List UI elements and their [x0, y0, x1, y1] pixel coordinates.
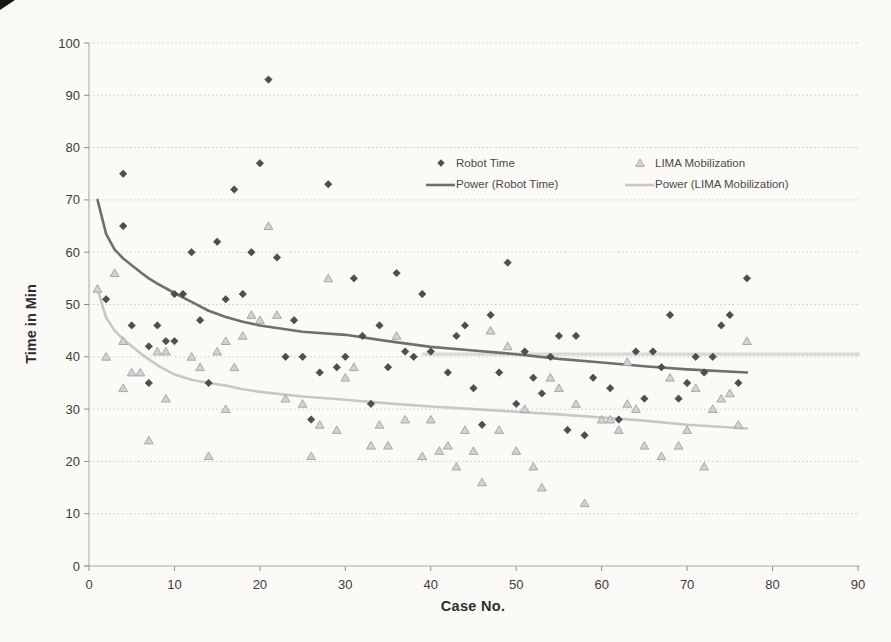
x-tick-label: 70: [665, 577, 709, 592]
plot-area: [0, 0, 891, 642]
data-point-robot-time: [444, 369, 451, 376]
data-point-robot-time: [607, 384, 614, 391]
data-point-robot-time: [273, 254, 280, 261]
legend-label: Power (LIMA Mobilization): [655, 178, 789, 191]
data-point-robot-time: [290, 316, 297, 323]
data-point-lima-mobilization: [264, 222, 273, 230]
data-point-lima-mobilization: [666, 374, 675, 382]
data-point-lima-mobilization: [127, 368, 136, 376]
data-point-robot-time: [675, 395, 682, 402]
data-point-robot-time: [504, 259, 511, 266]
data-point-lima-mobilization: [725, 389, 734, 397]
data-point-robot-time: [128, 322, 135, 329]
x-tick-label: 0: [67, 577, 111, 592]
data-point-robot-time: [333, 364, 340, 371]
data-point-robot-time: [718, 322, 725, 329]
data-point-lima-mobilization: [196, 363, 205, 371]
y-tick-label: 60: [38, 245, 80, 260]
data-point-lima-mobilization: [700, 462, 709, 470]
y-tick-label: 70: [38, 192, 80, 207]
data-point-lima-mobilization: [401, 415, 410, 423]
data-point-robot-time: [154, 322, 161, 329]
data-point-robot-time: [376, 322, 383, 329]
data-point-lima-mobilization: [717, 394, 726, 402]
data-point-lima-mobilization: [213, 347, 222, 355]
x-axis-title: Case No.: [403, 598, 543, 614]
data-point-robot-time: [683, 379, 690, 386]
data-point-lima-mobilization: [153, 347, 162, 355]
x-tick-label: 20: [238, 577, 282, 592]
legend-triangle-icon: [636, 159, 645, 167]
data-point-lima-mobilization: [640, 442, 649, 450]
data-point-lima-mobilization: [614, 426, 623, 434]
data-point-lima-mobilization: [341, 374, 350, 382]
data-point-robot-time: [572, 332, 579, 339]
data-point-lima-mobilization: [392, 332, 401, 340]
data-point-robot-time: [513, 400, 520, 407]
data-point-robot-time: [102, 296, 109, 303]
data-point-robot-time: [555, 332, 562, 339]
data-point-lima-mobilization: [119, 384, 128, 392]
data-point-robot-time: [213, 238, 220, 245]
data-point-robot-time: [564, 426, 571, 433]
data-point-lima-mobilization: [623, 400, 632, 408]
data-point-robot-time: [256, 160, 263, 167]
data-point-lima-mobilization: [486, 326, 495, 334]
y-tick-label: 90: [38, 88, 80, 103]
data-point-lima-mobilization: [136, 368, 145, 376]
y-tick-label: 20: [38, 454, 80, 469]
data-point-robot-time: [342, 353, 349, 360]
data-point-lima-mobilization: [273, 311, 282, 319]
data-point-lima-mobilization: [426, 415, 435, 423]
data-point-robot-time: [666, 311, 673, 318]
data-point-robot-time: [231, 186, 238, 193]
data-point-lima-mobilization: [546, 374, 555, 382]
y-tick-label: 40: [38, 349, 80, 364]
data-point-lima-mobilization: [443, 442, 452, 450]
data-point-lima-mobilization: [93, 285, 102, 293]
data-point-robot-time: [461, 322, 468, 329]
y-tick-label: 0: [38, 559, 80, 574]
data-point-robot-time: [658, 364, 665, 371]
data-point-lima-mobilization: [623, 358, 632, 366]
data-point-robot-time: [410, 353, 417, 360]
data-point-robot-time: [538, 390, 545, 397]
data-point-robot-time: [495, 369, 502, 376]
legend-label: Power (Robot Time): [456, 178, 558, 191]
data-point-lima-mobilization: [683, 426, 692, 434]
data-point-lima-mobilization: [110, 269, 119, 277]
data-point-lima-mobilization: [238, 332, 247, 340]
data-point-robot-time: [615, 416, 622, 423]
y-tick-label: 100: [38, 36, 80, 51]
data-point-lima-mobilization: [349, 363, 358, 371]
data-point-lima-mobilization: [734, 421, 743, 429]
x-tick-label: 10: [152, 577, 196, 592]
data-point-lima-mobilization: [478, 478, 487, 486]
data-point-lima-mobilization: [307, 452, 316, 460]
data-point-lima-mobilization: [743, 337, 752, 345]
data-point-lima-mobilization: [512, 447, 521, 455]
data-point-robot-time: [350, 275, 357, 282]
data-point-lima-mobilization: [144, 436, 153, 444]
data-point-lima-mobilization: [537, 483, 546, 491]
data-point-robot-time: [401, 348, 408, 355]
data-point-lima-mobilization: [102, 353, 111, 361]
data-point-robot-time: [735, 379, 742, 386]
data-point-robot-time: [196, 316, 203, 323]
data-point-lima-mobilization: [230, 363, 239, 371]
x-tick-label: 60: [580, 577, 624, 592]
data-point-robot-time: [248, 249, 255, 256]
trendline-power-robot-time: [98, 200, 747, 373]
data-point-lima-mobilization: [384, 442, 393, 450]
data-point-lima-mobilization: [529, 462, 538, 470]
data-point-robot-time: [393, 269, 400, 276]
data-point-lima-mobilization: [580, 499, 589, 507]
data-point-robot-time: [453, 332, 460, 339]
data-point-robot-time: [641, 395, 648, 402]
y-tick-label: 80: [38, 140, 80, 155]
data-point-robot-time: [384, 364, 391, 371]
data-point-lima-mobilization: [324, 274, 333, 282]
data-point-lima-mobilization: [435, 447, 444, 455]
x-tick-label: 50: [494, 577, 538, 592]
data-point-robot-time: [265, 76, 272, 83]
